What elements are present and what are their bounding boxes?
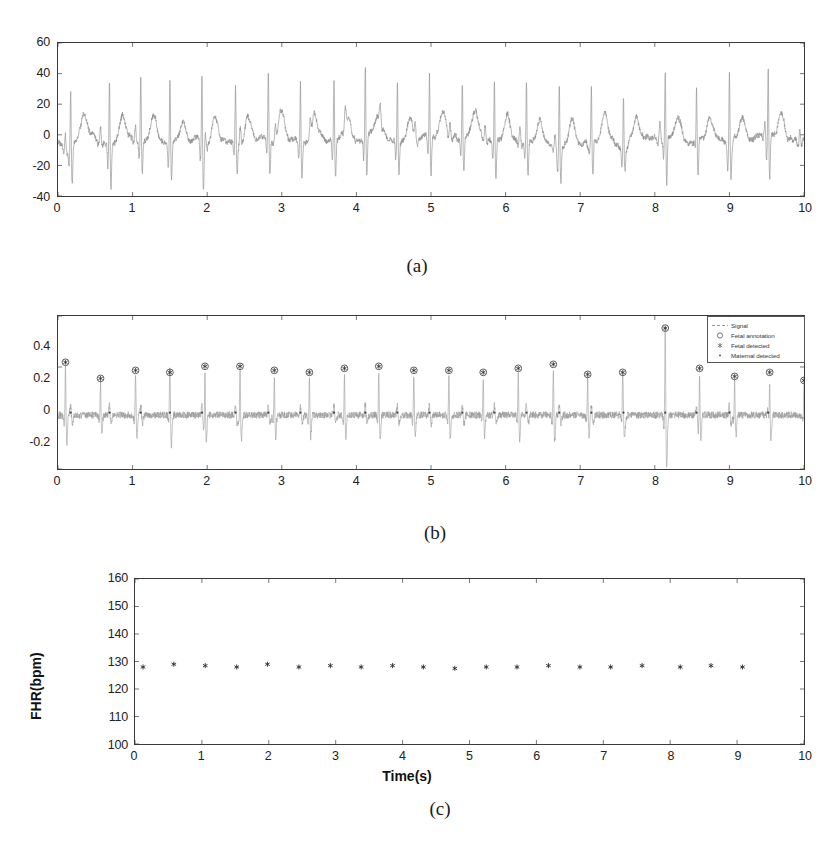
plot-area-b [57,315,805,470]
xtick-b-4: 4 [353,474,360,488]
caption-c: (c) [429,798,450,820]
dot-marker-icon [711,351,731,360]
legend-label-signal: Signal [731,321,748,330]
asterisk-marker-icon [711,341,731,350]
ytick-c-6: 100 [88,738,128,752]
xtick-b-3: 3 [278,474,285,488]
figure-container: 60 40 20 0 -20 -40 0 1 2 3 4 5 6 7 8 9 1… [0,0,834,842]
ytick-c-1: 150 [88,599,128,613]
xtick-b-10: 10 [798,474,812,488]
plot-area-a [57,42,805,197]
xtick-a-4: 4 [353,201,360,215]
plot-area-c [134,578,805,745]
legend-label-fetal-annotation: Fetal annotation [731,331,775,340]
legend-item-signal: Signal [711,321,800,331]
xtick-b-2: 2 [203,474,210,488]
ytick-a-5: -40 [16,190,50,204]
xtick-b-1: 1 [128,474,135,488]
ytick-c-0: 160 [88,571,128,585]
xtick-b-0: 0 [54,474,61,488]
xtick-c-0: 0 [131,749,138,763]
xtick-c-4: 4 [399,749,406,763]
ecg-waveform-a [58,43,804,196]
ytick-b-2: 0 [8,403,50,417]
ytick-a-2: 20 [16,97,50,111]
xtick-c-5: 5 [466,749,473,763]
xtick-a-9: 9 [727,201,734,215]
xtick-a-10: 10 [798,201,812,215]
panel-a: 60 40 20 0 -20 -40 0 1 2 3 4 5 6 7 8 9 1… [0,0,834,300]
xtick-a-1: 1 [128,201,135,215]
panel-c: FHR(bpm) 160 150 140 130 120 110 100 0 1… [0,560,834,842]
xtick-c-9: 9 [735,749,742,763]
xtick-b-7: 7 [577,474,584,488]
ytick-a-3: 0 [16,128,50,142]
xtick-a-7: 7 [577,201,584,215]
caption-b: (b) [424,522,446,544]
ytick-b-3: -0.2 [8,435,50,449]
xtick-c-2: 2 [265,749,272,763]
xtick-c-3: 3 [332,749,339,763]
xtick-b-8: 8 [652,474,659,488]
ytick-b-1: 0.2 [8,371,50,385]
caption-a: (a) [406,255,427,277]
legend-label-maternal-detected: Maternal detected [731,351,780,360]
fhr-scatter-c [135,579,804,744]
legend-b: Signal Fetal annotation [707,316,805,363]
axis-title-y-c: FHR(bpm) [28,652,44,720]
ytick-c-4: 120 [88,682,128,696]
xtick-b-5: 5 [428,474,435,488]
xtick-b-9: 9 [727,474,734,488]
xtick-a-5: 5 [428,201,435,215]
xtick-c-10: 10 [798,749,812,763]
xtick-a-0: 0 [54,201,61,215]
legend-item-maternal-detected: Maternal detected [711,351,800,361]
ytick-b-0: 0.4 [8,339,50,353]
legend-item-fetal-annotation: Fetal annotation [711,331,800,341]
ytick-a-4: -20 [16,159,50,173]
xtick-b-6: 6 [502,474,509,488]
line-marker-icon [711,321,731,330]
xtick-a-3: 3 [278,201,285,215]
xtick-c-1: 1 [198,749,205,763]
xtick-a-8: 8 [652,201,659,215]
xtick-a-6: 6 [502,201,509,215]
axis-title-x-c: Time(s) [382,768,432,784]
ytick-c-3: 130 [88,655,128,669]
xtick-c-7: 7 [600,749,607,763]
ecg-waveform-b [58,316,804,469]
circle-marker-icon [711,331,731,340]
xtick-c-6: 6 [533,749,540,763]
panel-b: Signal Fetal annotation [0,290,834,560]
ytick-c-5: 110 [88,710,128,724]
ytick-c-2: 140 [88,627,128,641]
legend-label-fetal-detected: Fetal detected [731,341,770,350]
legend-item-fetal-detected: Fetal detected [711,341,800,351]
ytick-a-0: 60 [16,35,50,49]
xtick-a-2: 2 [203,201,210,215]
xtick-c-8: 8 [667,749,674,763]
ytick-a-1: 40 [16,66,50,80]
